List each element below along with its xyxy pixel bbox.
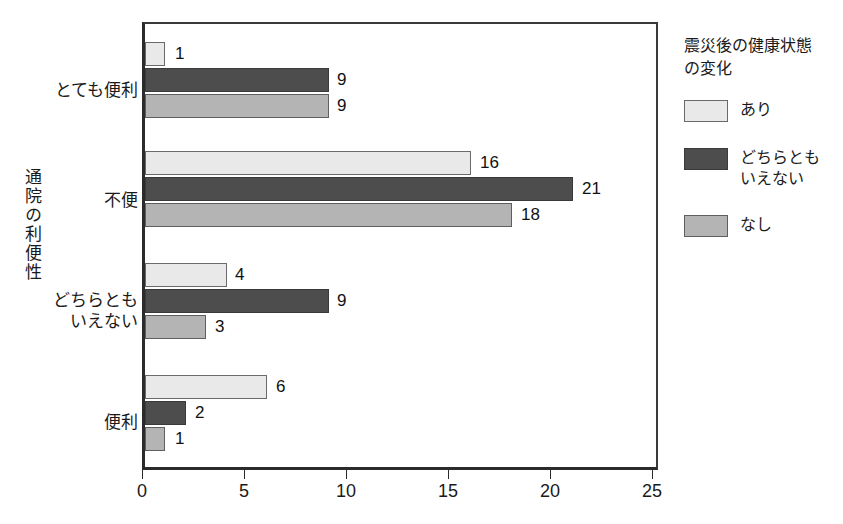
bar-row: 2	[145, 401, 656, 425]
bar-row: 21	[145, 177, 656, 201]
bar-row: 1	[145, 42, 656, 66]
bar-value-label: 21	[582, 179, 601, 199]
x-tick	[244, 470, 245, 479]
bar-chart-figure: 通院の利便性 とても便利 不便 どちらとも いえない 便利 1 9 9	[0, 0, 843, 524]
bar-row: 1	[145, 427, 656, 451]
bar-ari	[145, 263, 227, 287]
x-tick	[652, 470, 653, 479]
bar-value-label: 1	[175, 44, 184, 64]
bar-value-label: 3	[215, 317, 224, 337]
plot-area: 1 9 9 16 21 18	[142, 22, 658, 470]
x-axis: 0 5 10 15 20 25	[142, 470, 658, 510]
bar-group-benri: 6 2 1	[145, 375, 656, 453]
bar-value-label: 6	[276, 377, 285, 397]
x-tick-label: 15	[438, 481, 458, 502]
legend-label: なし	[740, 214, 772, 235]
legend: 震災後の健康状態 の変化 あり どちらとも いえない なし	[684, 34, 839, 263]
bar-row: 9	[145, 68, 656, 92]
medium-gray-swatch-icon	[684, 215, 728, 237]
bar-value-label: 18	[521, 205, 540, 225]
category-label-dochiratomo-ienai: どちらとも いえない	[0, 290, 138, 332]
legend-title: 震災後の健康状態 の変化	[684, 34, 839, 80]
bar-row: 9	[145, 289, 656, 313]
x-tick-label: 0	[137, 481, 147, 502]
bar-dochiratomo	[145, 68, 329, 92]
x-tick-label: 10	[336, 481, 356, 502]
x-tick	[346, 470, 347, 479]
bar-ari	[145, 375, 267, 399]
bar-row: 6	[145, 375, 656, 399]
bar-nashi	[145, 94, 329, 118]
category-label-benri: 便利	[0, 412, 138, 433]
bar-row: 18	[145, 203, 656, 227]
legend-label: どちらとも いえない	[740, 147, 820, 189]
bar-value-label: 1	[175, 429, 184, 449]
bar-row: 16	[145, 151, 656, 175]
bar-dochiratomo	[145, 289, 329, 313]
light-gray-swatch-icon	[684, 100, 728, 122]
bar-nashi	[145, 427, 165, 451]
legend-item-ari: あり	[684, 100, 839, 122]
legend-label: あり	[740, 99, 772, 120]
bar-dochiratomo	[145, 177, 573, 201]
category-label-fuben: 不便	[0, 190, 138, 211]
bar-value-label: 9	[337, 70, 346, 90]
bar-value-label: 9	[337, 291, 346, 311]
category-label-column: とても便利 不便 どちらとも いえない 便利	[0, 22, 138, 470]
bar-row: 9	[145, 94, 656, 118]
bar-ari	[145, 151, 471, 175]
bar-nashi	[145, 315, 206, 339]
dark-gray-swatch-icon	[684, 148, 728, 170]
legend-item-nashi: なし	[684, 215, 839, 237]
bar-value-label: 4	[235, 265, 244, 285]
bar-group-dochiratomo-ienai: 4 9 3	[145, 263, 656, 341]
x-tick	[550, 470, 551, 479]
bar-row: 4	[145, 263, 656, 287]
legend-item-dochiratomo-ienai: どちらとも いえない	[684, 148, 839, 189]
bar-value-label: 9	[337, 96, 346, 116]
x-tick-label: 20	[540, 481, 560, 502]
bar-nashi	[145, 203, 512, 227]
bar-group-totemo-benri: 1 9 9	[145, 42, 656, 120]
bar-ari	[145, 42, 165, 66]
x-tick-label: 5	[239, 481, 249, 502]
category-label-totemo-benri: とても便利	[0, 80, 138, 101]
bar-value-label: 2	[195, 403, 204, 423]
bar-value-label: 16	[480, 153, 499, 173]
bar-row: 3	[145, 315, 656, 339]
bar-dochiratomo	[145, 401, 186, 425]
x-tick	[448, 470, 449, 479]
x-tick	[142, 470, 143, 479]
bar-group-fuben: 16 21 18	[145, 151, 656, 229]
x-tick-label: 25	[642, 481, 662, 502]
